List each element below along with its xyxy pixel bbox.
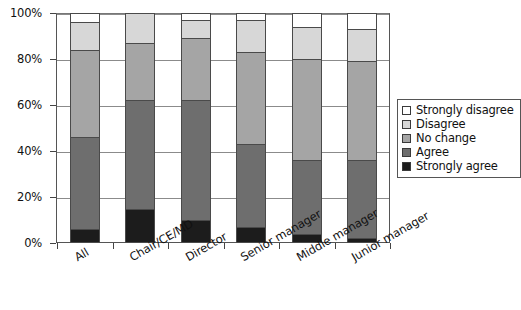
legend-item-strongly-agree[interactable]: Strongly agree xyxy=(402,159,514,173)
legend-swatch-strongly-agree xyxy=(402,162,411,171)
legend-item-disagree[interactable]: Disagree xyxy=(402,117,514,131)
legend-label: Agree xyxy=(416,145,449,159)
legend-item-strongly-disagree[interactable]: Strongly disagree xyxy=(402,103,514,117)
legend-item-agree[interactable]: Agree xyxy=(402,145,514,159)
x-tick-mark xyxy=(113,243,114,249)
legend-swatch-disagree xyxy=(402,120,411,129)
legend-swatch-strongly-disagree xyxy=(402,106,411,115)
legend-label: No change xyxy=(416,131,476,145)
legend-label: Disagree xyxy=(416,117,465,131)
legend: Strongly disagree Disagree No change Agr… xyxy=(397,99,521,178)
legend-label: Strongly disagree xyxy=(416,103,514,117)
legend-label: Strongly agree xyxy=(416,159,498,173)
legend-swatch-no-change xyxy=(402,134,411,143)
x-axis-label-all: All xyxy=(72,245,91,264)
legend-item-no-change[interactable]: No change xyxy=(402,131,514,145)
x-tick-mark xyxy=(57,243,58,249)
x-axis-label-director: Director xyxy=(183,229,229,264)
legend-swatch-agree xyxy=(402,148,411,157)
